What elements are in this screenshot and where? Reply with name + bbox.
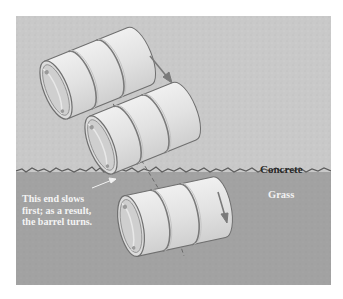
annotation-line-3: the barrel turns. <box>22 216 92 228</box>
concrete-label: Concrete <box>260 163 303 175</box>
refraction-barrel-diagram: Concrete Grass This end slows first; as … <box>16 16 331 285</box>
grass-label: Grass <box>268 189 294 200</box>
annotation-line-1: This end slows <box>22 193 92 205</box>
annotation-line-2: first; as a result, <box>22 205 92 217</box>
diagram-canvas <box>16 16 331 285</box>
annotation-text: This end slows first; as a result, the b… <box>22 193 92 228</box>
